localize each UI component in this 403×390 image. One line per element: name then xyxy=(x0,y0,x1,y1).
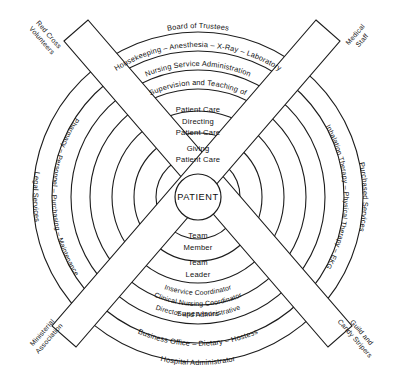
ring-5-bottom-label-line2: Supervisors xyxy=(177,309,219,318)
ring-6-left-label: Pharmacy – Personnel – Purchasing – Main… xyxy=(51,117,81,277)
right-ring-labels: Purchased Services Inhalation Therapy – … xyxy=(325,123,370,270)
ring-6-bottom-label: Business Office – Dietary – Hostess xyxy=(137,327,259,348)
ring-7-top-label: Board of Trustees xyxy=(166,21,230,33)
corner-label-top-right: Medical Staff xyxy=(344,22,373,52)
ring-3-bottom-label: Team xyxy=(188,258,207,267)
corner-label-bottom-left: Ministerial Association xyxy=(27,316,64,355)
patient-center-label: PATIENT xyxy=(177,192,218,202)
corner-label-bottom-right: Guild and Candy Stripers xyxy=(336,312,381,360)
ring-7-right-label: Purchased Services xyxy=(357,161,370,232)
ring-3-top-label: Directing xyxy=(182,117,214,126)
ring-4-top-label-line2: Patient Care xyxy=(176,105,221,114)
ring-2-bottom-label-line2: Member xyxy=(183,243,212,252)
corner-label-top-left: Red Cross Volunteers xyxy=(28,19,63,56)
ring-3-bottom-label-line2: Leader xyxy=(186,270,211,279)
left-ring-labels: Legal Services Pharmacy – Personnel – Pu… xyxy=(31,117,80,277)
ring-4-bottom-label: Inservice Coordinator xyxy=(164,283,233,296)
ring-2-top-label-line2: Patient Care xyxy=(176,155,221,164)
ring-2-top-label: Giving xyxy=(187,144,210,153)
ring-7-left-label: Legal Services xyxy=(31,171,42,222)
ring-6-right-label: Inhalation Therapy – Physical Therapy – … xyxy=(325,123,350,270)
ring-2-bottom-label: Team xyxy=(188,231,207,240)
diagonal-bars xyxy=(52,20,352,347)
ring-7-bottom-label: Hospital Administrator xyxy=(160,354,236,367)
ring-3-top-label-line2: Patient Care xyxy=(176,128,221,137)
patient-centered-organization-wheel: Board of Trustees Housekeeping – Anesthe… xyxy=(0,0,403,390)
